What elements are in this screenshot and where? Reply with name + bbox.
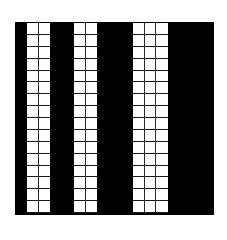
grid-cell — [39, 82, 51, 94]
grid-cell — [39, 71, 51, 83]
grid-cell — [74, 23, 86, 35]
grid-cell — [156, 35, 168, 47]
grid-cell — [133, 35, 145, 47]
grid-cell — [145, 59, 157, 71]
grid-cell — [86, 82, 98, 94]
grid-cell — [145, 47, 157, 59]
grid-cell — [86, 23, 98, 35]
grid-cell — [74, 142, 86, 154]
grid-cell — [156, 130, 168, 142]
grid-cell — [74, 201, 86, 213]
grid-cell — [39, 142, 51, 154]
grid-cell — [156, 154, 168, 166]
grid-cell — [39, 47, 51, 59]
grid-cell — [86, 118, 98, 130]
grid-cell — [145, 142, 157, 154]
grid-cell — [133, 106, 145, 118]
grid-cell — [27, 142, 39, 154]
grid-cell — [145, 166, 157, 178]
grid-cell — [27, 35, 39, 47]
grid-cell — [145, 118, 157, 130]
grid-cell — [74, 94, 86, 106]
grid-cell — [74, 47, 86, 59]
grid-cell — [27, 59, 39, 71]
black-square-board — [15, 22, 214, 215]
grid-cell — [39, 130, 51, 142]
grid-cell — [39, 166, 51, 178]
grid-cell — [156, 189, 168, 201]
grid-cell — [86, 59, 98, 71]
grid-cell — [86, 71, 98, 83]
grid-cell — [133, 47, 145, 59]
grid-cell — [156, 201, 168, 213]
grid-cell — [133, 118, 145, 130]
grid-cell — [27, 118, 39, 130]
grid-cell — [39, 35, 51, 47]
grid-cell — [74, 82, 86, 94]
grid-cell — [86, 189, 98, 201]
grid-cell — [27, 154, 39, 166]
grid-cell — [86, 166, 98, 178]
grid-cell — [74, 59, 86, 71]
grid-cell — [27, 130, 39, 142]
grid-cell — [145, 130, 157, 142]
grid-cell — [156, 142, 168, 154]
grid-cell — [156, 71, 168, 83]
grid-cell — [133, 142, 145, 154]
grid-cell — [86, 47, 98, 59]
grid-cell — [156, 106, 168, 118]
grid-cell — [27, 23, 39, 35]
grid-cell — [145, 35, 157, 47]
white-bar-2 — [73, 23, 98, 213]
grid-cell — [39, 189, 51, 201]
grid-cell — [74, 154, 86, 166]
grid-cell — [156, 177, 168, 189]
grid-cell — [133, 82, 145, 94]
grid-cell — [74, 106, 86, 118]
grid-cell — [74, 35, 86, 47]
grid-cell — [133, 189, 145, 201]
grid-cell — [27, 82, 39, 94]
grid-cell — [39, 106, 51, 118]
grid-cell — [27, 166, 39, 178]
grid-cell — [74, 189, 86, 201]
grid-cell — [86, 94, 98, 106]
grid-cell — [39, 154, 51, 166]
grid-cell — [74, 166, 86, 178]
grid-cell — [133, 154, 145, 166]
grid-cell — [86, 154, 98, 166]
grid-cell — [145, 106, 157, 118]
grid-cell — [27, 177, 39, 189]
grid-cell — [156, 166, 168, 178]
grid-cell — [86, 177, 98, 189]
grid-cell — [145, 82, 157, 94]
grid-cell — [133, 23, 145, 35]
grid-cell — [27, 106, 39, 118]
grid-cell — [39, 201, 51, 213]
grid-cell — [145, 71, 157, 83]
grid-cell — [145, 177, 157, 189]
grid-cell — [145, 201, 157, 213]
grid-cell — [133, 130, 145, 142]
grid-cell — [27, 201, 39, 213]
grid-cell — [86, 142, 98, 154]
grid-cell — [27, 71, 39, 83]
grid-cell — [39, 59, 51, 71]
grid-cell — [156, 82, 168, 94]
grid-cell — [145, 23, 157, 35]
grid-cell — [156, 47, 168, 59]
grid-cell — [133, 201, 145, 213]
white-bar-3 — [132, 23, 169, 213]
grid-cell — [39, 94, 51, 106]
grid-cell — [74, 71, 86, 83]
grid-cell — [39, 23, 51, 35]
white-bar-1 — [26, 23, 51, 213]
grid-cell — [133, 94, 145, 106]
grid-cell — [86, 130, 98, 142]
grid-cell — [27, 47, 39, 59]
grid-cell — [27, 189, 39, 201]
grid-cell — [86, 35, 98, 47]
grid-cell — [133, 59, 145, 71]
grid-cell — [145, 94, 157, 106]
grid-cell — [156, 59, 168, 71]
